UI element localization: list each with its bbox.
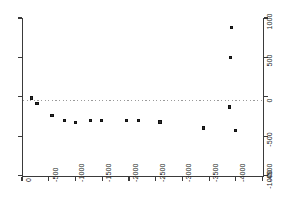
zero-reference-line: [23, 100, 263, 101]
x-axis-tick: [21, 177, 22, 181]
x-axis-tick-label: -4500: [266, 164, 273, 182]
x-axis-tick-label: 0: [25, 178, 32, 182]
data-point: [229, 56, 232, 59]
x-axis-tick-label: -4000: [239, 164, 246, 182]
y-axis-tick-label: 1000: [266, 14, 273, 30]
x-axis-tick-label: -1500: [105, 164, 112, 182]
y-axis-tick-label: 500: [266, 55, 273, 67]
x-axis-tick: [262, 177, 263, 181]
data-point: [100, 119, 103, 122]
x-axis-tick-label: -3500: [212, 164, 219, 182]
data-point: [63, 119, 66, 122]
y-axis-tick-left: [18, 96, 22, 97]
data-point: [137, 119, 140, 122]
data-point: [158, 120, 161, 123]
scatter-chart-figure: 10005000-500-1000 0-500-1000-1500-2000-2…: [0, 0, 290, 211]
data-point: [30, 96, 33, 99]
data-point: [202, 126, 205, 129]
x-axis-tick-label: -1000: [78, 164, 85, 182]
x-axis-tick: [182, 177, 183, 181]
data-point: [234, 129, 237, 132]
data-point: [230, 26, 233, 29]
x-axis-tick: [102, 177, 103, 181]
data-point: [89, 119, 92, 122]
x-axis-tick: [48, 177, 49, 181]
y-axis-tick: [264, 96, 268, 97]
axis-spine-left: [22, 18, 23, 177]
axis-spine-right: [263, 18, 264, 177]
data-point: [35, 102, 38, 105]
x-axis-tick: [155, 177, 156, 181]
x-axis-tick: [128, 177, 129, 181]
x-axis-tick-label: -500: [52, 168, 59, 182]
x-axis-tick: [235, 177, 236, 181]
y-axis-tick-left: [18, 136, 22, 137]
data-point: [50, 114, 53, 117]
y-axis-tick-left: [18, 57, 22, 58]
x-axis-tick-label: -2000: [132, 164, 139, 182]
data-point: [125, 119, 128, 122]
y-axis-tick-left: [18, 17, 22, 18]
data-point: [228, 105, 231, 108]
data-point: [74, 121, 77, 124]
x-axis-tick-label: -3000: [185, 164, 192, 182]
x-axis-tick: [209, 177, 210, 181]
y-axis-tick-label: 0: [266, 98, 273, 102]
y-axis-tick-label: -500: [266, 132, 273, 146]
x-axis-tick: [75, 177, 76, 181]
x-axis-tick-label: -2500: [159, 164, 166, 182]
